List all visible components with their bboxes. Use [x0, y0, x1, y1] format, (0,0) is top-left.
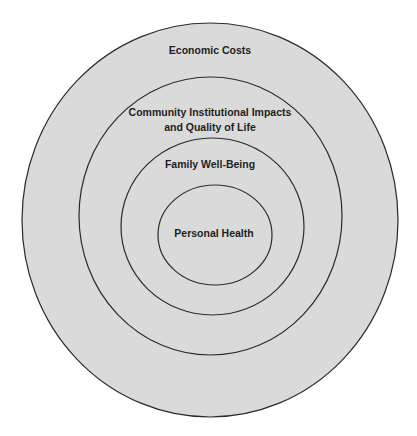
- label-community-line2: and Quality of Life: [129, 120, 292, 135]
- label-family-well-being: Family Well-Being: [165, 157, 255, 172]
- label-community-line1: Community Institutional Impacts: [129, 105, 292, 120]
- concentric-impact-diagram: [0, 0, 417, 436]
- label-community-institutional: Community Institutional Impacts and Qual…: [129, 105, 292, 135]
- label-economic-costs: Economic Costs: [169, 43, 251, 58]
- label-personal-health: Personal Health: [174, 226, 253, 241]
